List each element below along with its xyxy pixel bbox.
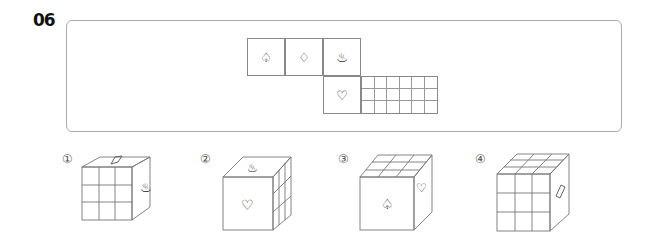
hot-spring-icon: ♨ — [247, 161, 258, 175]
spade-icon: ♤ — [381, 196, 394, 212]
hot-spring-icon: ♨ — [140, 180, 152, 195]
heart-icon: ♡ — [416, 181, 427, 195]
option-4[interactable]: ④ — [475, 152, 595, 235]
spade-icon: ♤ — [260, 50, 272, 65]
cube-2-drawing: ♨ ♡ — [200, 152, 320, 235]
net-face-diamond: ♢ — [285, 38, 323, 76]
question-number: 06 — [33, 10, 55, 30]
net-face-heart: ♡ — [323, 76, 361, 114]
option-2[interactable]: ② ♨ ♡ — [200, 152, 320, 235]
hot-spring-icon: ♨ — [336, 50, 348, 65]
net-face-spade: ♤ — [247, 38, 285, 76]
cube-3-drawing: ♤ ♡ — [338, 152, 458, 235]
net-face-hot-spring: ♨ — [323, 38, 361, 76]
diamond-icon: ♢ — [298, 50, 310, 65]
cube-1-drawing: ♨ — [62, 152, 182, 235]
heart-icon: ♡ — [241, 197, 254, 213]
cube-4-drawing — [475, 152, 595, 235]
heart-icon: ♡ — [336, 88, 348, 103]
option-3[interactable]: ③ ♤ ♡ — [338, 152, 458, 235]
net-face-grids — [361, 76, 438, 114]
option-1[interactable]: ① ♨ — [62, 152, 182, 235]
